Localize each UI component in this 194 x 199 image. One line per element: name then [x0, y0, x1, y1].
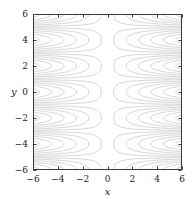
x-axis-tick-label: 2 — [129, 175, 135, 184]
y-axis-tick-label: −2 — [15, 114, 28, 123]
contour-plot-canvas — [0, 0, 194, 199]
x-axis-tick-label: −6 — [26, 175, 39, 184]
y-axis-tick-label: 0 — [22, 88, 28, 97]
y-axis-title: y — [11, 87, 17, 97]
y-axis-tick-label: 6 — [22, 10, 28, 19]
x-axis-tick-label: −4 — [51, 175, 64, 184]
y-axis-tick-label: 2 — [22, 62, 28, 71]
x-axis-tick-label: −2 — [76, 175, 89, 184]
x-axis-tick-label: 0 — [105, 175, 111, 184]
x-axis-title: x — [105, 187, 111, 197]
x-axis-tick-label: 6 — [179, 175, 185, 184]
y-axis-tick-label: 4 — [22, 36, 28, 45]
y-axis-tick-label: −6 — [15, 166, 28, 175]
y-axis-tick-label: −4 — [15, 140, 28, 149]
x-axis-tick-label: 4 — [154, 175, 160, 184]
contour-plot-figure: −6−4−20246−6−4−20246xy — [0, 0, 194, 199]
